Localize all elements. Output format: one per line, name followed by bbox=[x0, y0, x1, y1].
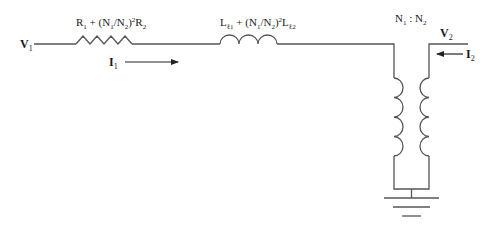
primary-coil-icon bbox=[394, 78, 403, 156]
secondary-coil-icon bbox=[420, 78, 429, 156]
resistor-icon bbox=[76, 36, 132, 44]
turns-ratio-label: N1 : N2 bbox=[395, 12, 427, 27]
ground-icon bbox=[384, 198, 439, 216]
inductance-label: Lℓ1 + (N1/N2)2Lℓ2 bbox=[220, 16, 296, 31]
v1-label: V1 bbox=[20, 37, 33, 53]
i1-label: I1 bbox=[109, 55, 118, 71]
v2-label: V2 bbox=[440, 26, 453, 42]
circuit-diagram: V1 R1 + (N1/N2)2R2 Lℓ1 + (N1/N2)2Lℓ2 I1 … bbox=[0, 0, 491, 228]
secondary-feed-wire bbox=[429, 44, 468, 78]
resistance-label: R1 + (N1/N2)2R2 bbox=[76, 16, 147, 31]
i2-label: I2 bbox=[466, 47, 475, 63]
inductor-icon bbox=[220, 35, 277, 44]
primary-feed-wire bbox=[277, 44, 394, 78]
coil-return-wire bbox=[394, 156, 429, 189]
